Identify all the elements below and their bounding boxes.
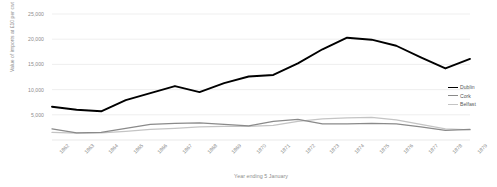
plot-area [52, 14, 470, 140]
x-tick-label: 1876 [402, 142, 414, 154]
x-tick-label: 1863 [83, 142, 95, 154]
y-tick-label: 10,000 [28, 87, 44, 93]
x-tick-label: 1872 [304, 142, 316, 154]
x-tick-label: 1878 [451, 142, 463, 154]
chart-legend: DublinCorkBelfast [448, 83, 494, 109]
legend-label: Cork [460, 93, 471, 99]
x-axis-tick-labels: 1862186318641865186618671868186918701871… [52, 141, 470, 167]
x-axis-title: Year ending 5 January [52, 173, 470, 179]
x-tick-label: 1868 [205, 142, 217, 154]
x-tick-label: 1867 [181, 142, 193, 154]
x-tick-label: 1879 [476, 142, 488, 154]
x-tick-label: 1869 [230, 142, 242, 154]
legend-swatch-icon [448, 87, 458, 88]
x-tick-label: 1874 [353, 142, 365, 154]
x-tick-label: 1875 [378, 142, 390, 154]
x-tick-label: 1866 [156, 142, 168, 154]
series-line-dublin [52, 38, 470, 112]
legend-item-belfast[interactable]: Belfast [448, 100, 494, 108]
line-chart: Value of imports at £10 per cwt 5,00010,… [0, 0, 497, 187]
legend-label: Belfast [460, 101, 476, 107]
y-tick-label: 20,000 [28, 36, 44, 42]
y-tick-label: 5,000 [31, 112, 44, 118]
legend-item-cork[interactable]: Cork [448, 92, 494, 100]
x-tick-label: 1877 [427, 142, 439, 154]
legend-swatch-icon [448, 95, 458, 96]
legend-item-dublin[interactable]: Dublin [448, 83, 494, 91]
y-axis-tick-labels: 5,00010,00015,00020,00025,000 [0, 14, 48, 140]
x-tick-label: 1865 [132, 142, 144, 154]
y-tick-label: 25,000 [28, 11, 44, 17]
x-tick-label: 1864 [107, 142, 119, 154]
x-tick-label: 1873 [328, 142, 340, 154]
legend-swatch-icon [448, 104, 458, 105]
x-tick-label: 1862 [58, 142, 70, 154]
x-tick-label: 1870 [255, 142, 267, 154]
legend-label: Dublin [460, 84, 475, 90]
series-lines [52, 14, 470, 140]
x-tick-label: 1871 [279, 142, 291, 154]
y-tick-label: 15,000 [28, 61, 44, 67]
